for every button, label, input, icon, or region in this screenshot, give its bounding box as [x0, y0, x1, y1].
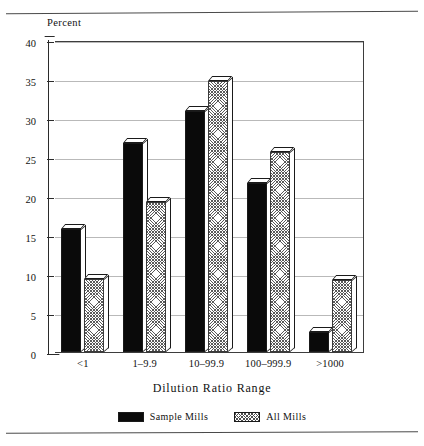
bar-face: [185, 111, 205, 352]
bars-layer: [55, 42, 363, 352]
legend-label-sample-mills: Sample Mills: [150, 411, 208, 422]
y-axis-tick-label: 30: [26, 116, 37, 127]
bar-sample-mills: [61, 229, 81, 352]
bar-cap-3d: [309, 327, 333, 332]
plot-area: 0510152025303540: [55, 41, 364, 353]
y-axis-tick: 35: [47, 81, 54, 82]
y-axis-tick: 20: [47, 198, 54, 199]
bar-sample-mills: [309, 332, 329, 352]
bar-face: [84, 279, 104, 352]
bar-face: [247, 183, 267, 352]
x-axis-tick-label: <1: [77, 358, 89, 369]
x-axis-tick-label: 1–9.9: [132, 358, 157, 369]
bar-side-3d: [166, 198, 171, 352]
y-axis-tick-label: 10: [26, 272, 37, 283]
bar-side-3d: [104, 274, 109, 352]
bar-face: [208, 81, 228, 352]
bar-all-mills: [84, 279, 104, 352]
bar-face: [309, 332, 329, 352]
x-axis-tick-label: 10–99.9: [189, 358, 225, 369]
legend-swatch-crosshatch-icon: [234, 412, 260, 422]
bar-all-mills: [208, 81, 228, 352]
y-axis-tick-label: 15: [26, 233, 37, 244]
bar-cap-3d: [247, 178, 271, 183]
bar-sample-mills: [185, 111, 205, 352]
bar-face: [270, 152, 290, 352]
y-axis-tick: 10: [47, 276, 54, 277]
bar-group: [309, 42, 352, 352]
y-axis-tick: 0: [47, 354, 54, 355]
legend-item-sample-mills: Sample Mills: [118, 411, 208, 422]
bar-cap-3d: [332, 275, 356, 280]
bar-sample-mills: [247, 183, 267, 352]
y-axis-tick-label: 5: [31, 311, 36, 322]
y-axis-outer-line: [48, 40, 49, 354]
y-axis-tick: 5: [47, 315, 54, 316]
bar-face: [332, 280, 352, 352]
x-axis-tick-label: >1000: [316, 358, 344, 369]
y-axis-tick: 40: [47, 42, 54, 43]
bar-side-3d: [228, 77, 233, 352]
bar-sample-mills: [123, 143, 143, 352]
y-axis-tick: 15: [47, 237, 54, 238]
bar-cap-3d: [185, 106, 209, 111]
bar-face: [61, 229, 81, 352]
bar-chart-figure: Percent 0510152025303540 <11–9.910–99.91…: [0, 0, 424, 446]
x-axis-title: Dilution Ratio Range: [0, 381, 424, 396]
y-axis-tick: 30: [47, 120, 54, 121]
y-axis-tick-label: 20: [26, 194, 37, 205]
bar-all-mills: [270, 152, 290, 352]
bar-group: [185, 42, 228, 352]
bar-all-mills: [146, 202, 166, 352]
bar-face: [146, 202, 166, 352]
y-axis-tick-label: 35: [26, 77, 37, 88]
bar-group: [123, 42, 166, 352]
bar-all-mills: [332, 280, 352, 352]
legend-label-all-mills: All Mills: [266, 411, 306, 422]
legend-swatch-solid-icon: [118, 412, 144, 422]
y-axis-tick-label: 40: [26, 38, 37, 49]
chart-legend: Sample Mills All Mills: [0, 411, 424, 422]
y-axis-title: Percent: [47, 17, 81, 28]
x-axis-tick-label: 100–999.9: [245, 358, 291, 369]
bar-side-3d: [352, 276, 357, 352]
bar-group: [61, 42, 104, 352]
bar-side-3d: [290, 148, 295, 352]
legend-item-all-mills: All Mills: [234, 411, 306, 422]
bar-group: [247, 42, 290, 352]
y-axis-tick: 25: [47, 159, 54, 160]
bar-face: [123, 143, 143, 352]
y-axis-tick-label: 0: [31, 350, 36, 361]
y-axis-tick-label: 25: [26, 155, 37, 166]
